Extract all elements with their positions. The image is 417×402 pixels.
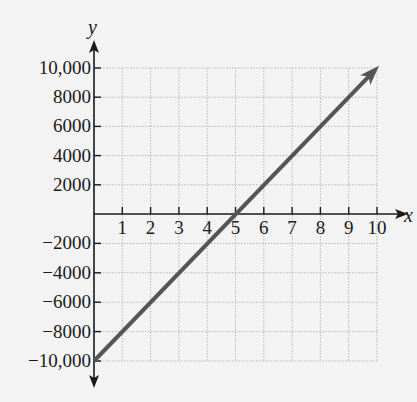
- y-tick-label: 6000: [53, 115, 91, 136]
- y-tick-label: −8000: [42, 321, 91, 342]
- y-tick-label: 8000: [53, 86, 91, 107]
- y-tick-label: −10,000: [28, 350, 91, 371]
- y-tick-label: 2000: [53, 174, 91, 195]
- y-tick-label: −2000: [42, 232, 91, 253]
- x-tick-label: 7: [287, 217, 297, 238]
- line-chart: x y 1234567891010,0008000600040002000−20…: [0, 0, 417, 402]
- y-tick-label: 4000: [53, 145, 91, 166]
- x-tick-label: 6: [259, 217, 269, 238]
- x-tick-label: 8: [316, 217, 326, 238]
- x-tick-label: 2: [146, 217, 156, 238]
- y-axis-label: y: [86, 16, 97, 39]
- y-tick-label: −6000: [42, 291, 91, 312]
- x-tick-label: 3: [174, 217, 184, 238]
- data-line: [94, 73, 372, 361]
- x-axis-label: x: [403, 204, 413, 226]
- x-tick-label: 4: [202, 217, 212, 238]
- y-tick-label: 10,000: [39, 57, 91, 78]
- x-tick-label: 9: [344, 217, 354, 238]
- x-tick-label: 1: [118, 217, 128, 238]
- x-tick-label: 10: [368, 217, 387, 238]
- y-tick-label: −4000: [42, 262, 91, 283]
